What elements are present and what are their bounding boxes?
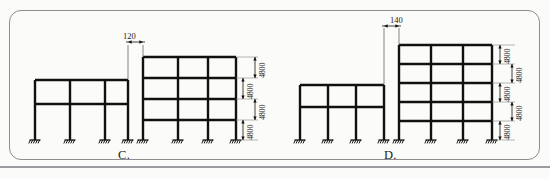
figure-d-right-frame xyxy=(393,45,498,143)
dimension-c-story-2: 4800 xyxy=(246,84,255,99)
dimension-c-story-4: 4800 xyxy=(246,125,255,140)
dimension-d-story-2: 4800 xyxy=(515,68,524,83)
dimension-d-story-1: 4800 xyxy=(503,49,512,64)
dimension-d-story-4: 4800 xyxy=(515,106,524,121)
figure-c-group xyxy=(29,40,258,143)
dimension-c-story-1: 4800 xyxy=(258,63,267,78)
figure-c-right-frame xyxy=(137,57,242,143)
structural-frames-drawing xyxy=(0,0,550,179)
dimension-d-story-5: 4800 xyxy=(503,125,512,140)
dimension-gap-c: 120 xyxy=(123,31,136,41)
dimension-d-story-3: 4800 xyxy=(503,87,512,102)
dimension-c-story-3: 4800 xyxy=(258,105,267,120)
figure-d-left-frame xyxy=(294,85,390,143)
figure-label-d: D. xyxy=(384,148,397,163)
scanned-page: C. D. 120 140 4800 4800 4800 4800 4800 4… xyxy=(0,0,550,179)
figure-c-left-frame xyxy=(29,80,134,143)
figure-label-c: C. xyxy=(118,148,130,163)
dimension-gap-d: 140 xyxy=(390,15,403,25)
figure-d-group xyxy=(294,24,515,143)
